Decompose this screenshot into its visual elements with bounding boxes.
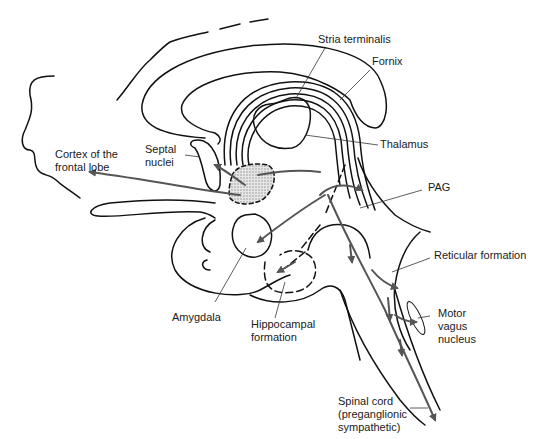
- leader-reticular: [392, 258, 430, 272]
- leader-hippo: [275, 282, 285, 318]
- label-hippocampal-formation: Hippocampal formation: [251, 318, 315, 344]
- label-septal-line1: Septal: [145, 143, 176, 156]
- label-reticular-formation: Reticular formation: [434, 249, 526, 262]
- label-stria-terminalis: Stria terminalis: [318, 33, 391, 46]
- brainstem-left: [172, 218, 290, 295]
- label-motor-line2: vagus: [438, 320, 476, 333]
- label-spinal-cord: Spinal cord (preganglionic sympathetic): [338, 395, 407, 434]
- label-septal-line2: nuclei: [145, 156, 176, 169]
- label-cortex-frontal: Cortex of the frontal lobe: [55, 148, 118, 174]
- hippocampal-dashed: [264, 251, 315, 293]
- brain-diagram: [0, 0, 537, 439]
- label-amygdala: Amygdala: [172, 311, 221, 324]
- arrow-to-cortex: [90, 172, 240, 195]
- leader-septal: [185, 155, 200, 157]
- hypothalamus-stipple: [229, 164, 274, 204]
- label-spinal-line2: (preganglionic: [338, 408, 407, 421]
- label-motor-line3: nucleus: [438, 333, 476, 346]
- cortex-outline-dashed: [220, 19, 268, 29]
- arrow-branch-2: [372, 270, 397, 288]
- temporal-curve: [202, 220, 215, 270]
- arrow-to-hippocampus: [278, 262, 295, 272]
- cortex-outline-left: [22, 76, 80, 198]
- label-motor-vagus-nucleus: Motor vagus nucleus: [438, 307, 476, 346]
- label-spinal-line3: sympathetic): [338, 421, 407, 434]
- label-pag: PAG: [428, 181, 450, 194]
- label-spinal-line1: Spinal cord: [338, 395, 407, 408]
- arrow-branch-4: [400, 340, 402, 355]
- olfactory-outline: [91, 200, 215, 218]
- label-cortex-line2: frontal lobe: [55, 161, 118, 174]
- thalamus-outline: [253, 98, 310, 149]
- label-motor-line1: Motor: [438, 307, 476, 320]
- pons-curve: [394, 232, 420, 350]
- leader-motor: [418, 316, 430, 318]
- label-thalamus: Thalamus: [380, 138, 428, 151]
- label-hippo-line1: Hippocampal: [251, 318, 315, 331]
- label-hippo-line2: formation: [251, 331, 315, 344]
- leader-fornix: [340, 70, 370, 100]
- label-septal-nuclei: Septal nuclei: [145, 143, 176, 169]
- label-fornix: Fornix: [372, 55, 403, 68]
- brainstem-right: [358, 158, 430, 232]
- label-cortex-line1: Cortex of the: [55, 148, 118, 161]
- arrow-branch-1: [350, 245, 352, 262]
